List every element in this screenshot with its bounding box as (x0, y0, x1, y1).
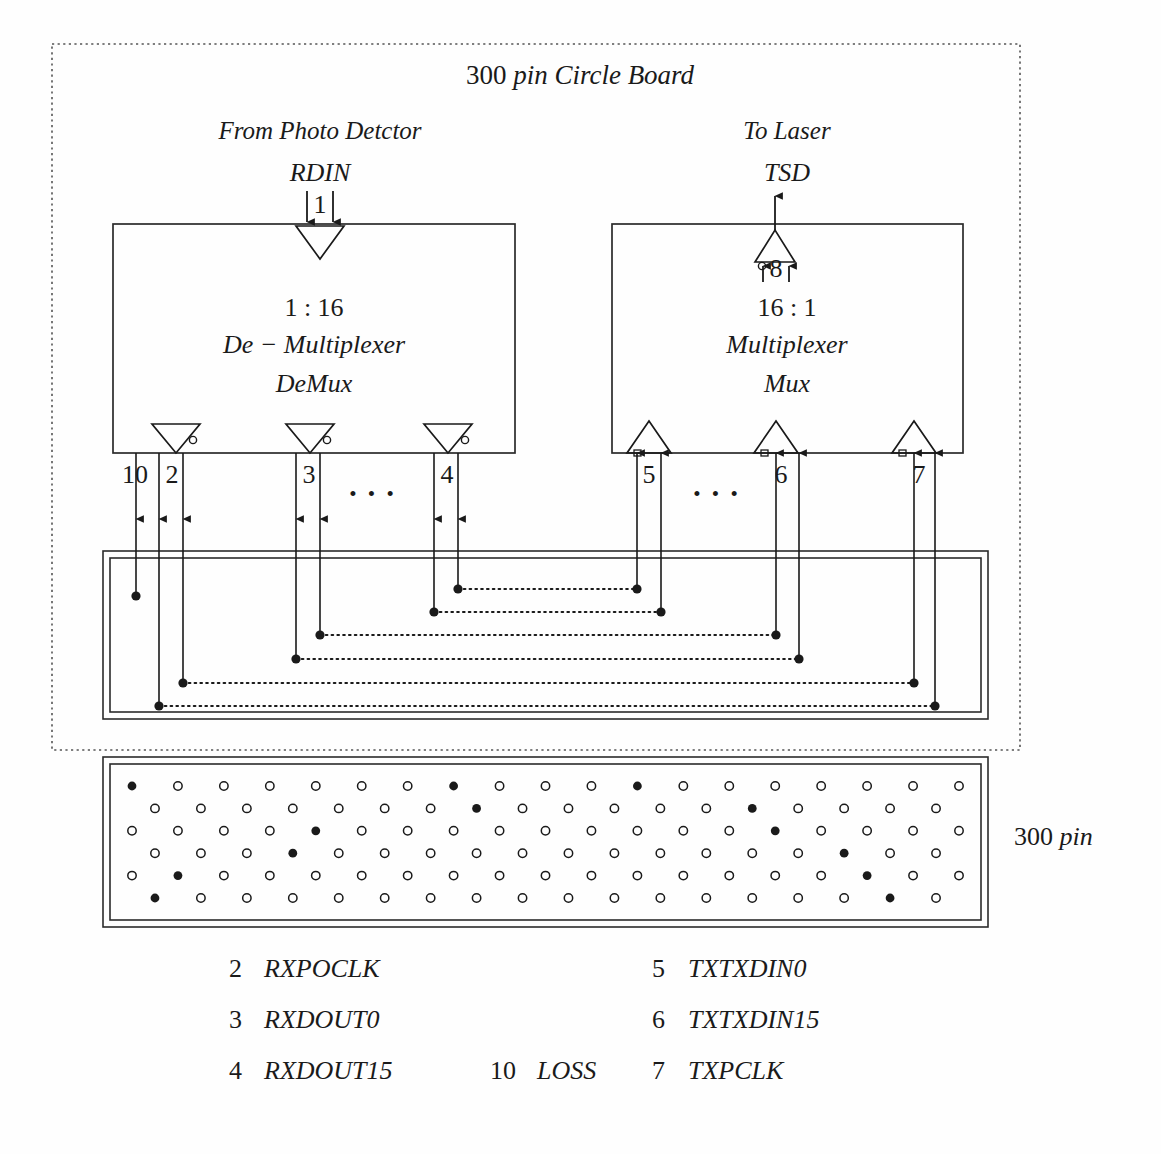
to-laser-sink-label: To Laser (743, 118, 830, 143)
pin-empty (564, 804, 572, 812)
pin-filled (886, 894, 895, 903)
pin-empty (932, 804, 940, 812)
pin-empty (587, 827, 595, 835)
pin-empty (725, 827, 733, 835)
legend-right-name-2: TXPCLK (688, 1058, 783, 1084)
pin-empty (518, 849, 526, 857)
pin-empty (564, 849, 572, 857)
pin-empty (449, 827, 457, 835)
pin-empty (197, 849, 205, 857)
pin-empty (220, 782, 228, 790)
mux-abbr-label: Mux (764, 371, 810, 397)
pin-empty (541, 782, 549, 790)
pin-empty (564, 894, 572, 902)
pin-empty (541, 871, 549, 879)
legend-right-name-0: TXTXDIN0 (688, 956, 806, 982)
pin-empty (220, 871, 228, 879)
demux-ratio-label: 1 : 16 (284, 295, 343, 321)
pin-empty (633, 827, 641, 835)
legend-left-num-0: 2 (229, 956, 242, 982)
tsd-bus-width-label: 8 (770, 256, 783, 282)
pin-empty (220, 827, 228, 835)
pin-empty (587, 782, 595, 790)
pin-empty (312, 782, 320, 790)
pin-empty (426, 849, 434, 857)
pin-empty (541, 827, 549, 835)
legend-right-name-1: TXTXDIN15 (688, 1007, 819, 1033)
pin-count-label: 300 pin (1014, 824, 1093, 850)
pin-empty (403, 782, 411, 790)
pin-filled (863, 871, 872, 880)
pin-grid-array (103, 757, 988, 927)
pin-empty (679, 827, 687, 835)
pin-empty (243, 894, 251, 902)
pin-empty (289, 804, 297, 812)
pin-empty (312, 871, 320, 879)
pin-empty (817, 782, 825, 790)
pin-empty (128, 871, 136, 879)
demux-name-label: De − Multiplexer (223, 332, 405, 358)
pin-empty (633, 871, 641, 879)
legend-left-num-1: 3 (229, 1007, 242, 1033)
pin-empty (335, 804, 343, 812)
pin-empty (266, 827, 274, 835)
pin-empty (863, 827, 871, 835)
pin-empty (794, 849, 802, 857)
net-2 (154, 453, 939, 711)
buffer-2 (152, 424, 200, 453)
pin-empty (794, 804, 802, 812)
pin-empty (656, 804, 664, 812)
pin-empty (495, 782, 503, 790)
pin-empty (886, 804, 894, 812)
pin-empty (380, 894, 388, 902)
pin-empty (403, 827, 411, 835)
legend-mid-num-0: 10 (490, 1058, 516, 1084)
pin-empty (151, 804, 159, 812)
pin-empty (909, 871, 917, 879)
pin-filled (288, 849, 297, 858)
net-4 (429, 453, 665, 617)
pin-filled (748, 804, 757, 813)
pin-empty (449, 871, 457, 879)
rdin-bus-width-label: 1 (314, 192, 327, 218)
pin-empty (909, 782, 917, 790)
pin-empty (794, 894, 802, 902)
pin-empty (472, 849, 480, 857)
demux-abbr-label: DeMux (276, 371, 353, 397)
mux-name-label: Multiplexer (726, 332, 847, 358)
pin-empty (840, 894, 848, 902)
legend-left-num-2: 4 (229, 1058, 242, 1084)
pin-empty (266, 782, 274, 790)
pin-empty (587, 871, 595, 879)
buffer-5 (627, 421, 671, 456)
pin-empty (702, 849, 710, 857)
buffer-3 (286, 424, 334, 453)
mux-ratio-label: 16 : 1 (757, 295, 816, 321)
pin-empty (197, 804, 205, 812)
pin-filled (633, 782, 642, 791)
pin-empty (932, 894, 940, 902)
pin-empty (174, 827, 182, 835)
pin-empty (151, 849, 159, 857)
rdin-signal-label: RDIN (290, 160, 351, 186)
pin-empty (863, 782, 871, 790)
pin-empty (128, 827, 136, 835)
pin-empty (840, 804, 848, 812)
pin-filled (449, 782, 458, 791)
pin-empty (518, 894, 526, 902)
pin-empty (748, 894, 756, 902)
pin-filled (128, 782, 137, 791)
port-label-2: 2 (166, 462, 179, 488)
pin-empty (610, 804, 618, 812)
port-label-6: 6 (775, 462, 788, 488)
pin-empty (817, 871, 825, 879)
pin-empty (955, 782, 963, 790)
buffer-6 (754, 421, 798, 456)
circle-board-diagram: 300 pin Circle Board From Photo Detctor … (0, 0, 1161, 1154)
pin-empty (426, 894, 434, 902)
pin-empty (243, 849, 251, 857)
pin-empty (817, 827, 825, 835)
pin-empty (335, 894, 343, 902)
legend-mid-name-0: LOSS (537, 1058, 596, 1084)
pin-empty (472, 894, 480, 902)
